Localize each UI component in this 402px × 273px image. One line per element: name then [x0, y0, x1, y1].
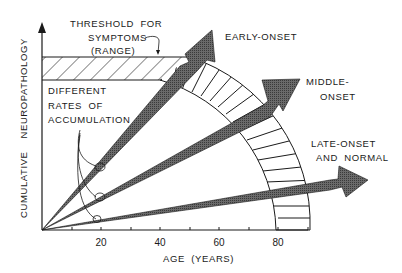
svg-text:SYMPTOMS: SYMPTOMS	[88, 32, 147, 43]
threshold-label: THRESHOLD FOR SYMPTOMS (RANGE)	[70, 18, 162, 56]
x-tick-40: 40	[154, 237, 166, 248]
rates-label: DIFFERENT RATES OF ACCUMULATION	[48, 85, 131, 125]
middle-onset-label-line2: ONSET	[320, 91, 356, 102]
middle-onset-label-line1: MIDDLE-	[306, 76, 349, 87]
y-axis	[38, 22, 46, 230]
svg-text:ACCUMULATION: ACCUMULATION	[48, 114, 131, 125]
svg-text:DIFFERENT: DIFFERENT	[48, 85, 107, 96]
x-tick-80: 80	[272, 237, 284, 248]
late-onset-label-line1: LATE-ONSET	[311, 138, 376, 149]
x-tick-20: 20	[95, 237, 107, 248]
svg-text:(RANGE): (RANGE)	[91, 45, 135, 56]
svg-text:THRESHOLD FOR: THRESHOLD FOR	[70, 18, 162, 29]
y-axis-label: CUMULATIVE NEUROPATHOLOGY	[18, 38, 29, 218]
svg-text:RATES OF: RATES OF	[48, 100, 103, 111]
neuropathology-diagram: 20 40 60 80 AGE (YEARS) CUMULATIVE NEURO…	[0, 0, 402, 273]
x-axis-label: AGE (YEARS)	[163, 253, 234, 264]
x-tick-60: 60	[213, 237, 225, 248]
late-onset-label-line2: AND NORMAL	[316, 152, 389, 163]
x-axis	[42, 227, 308, 230]
early-onset-label: EARLY-ONSET	[225, 31, 297, 42]
